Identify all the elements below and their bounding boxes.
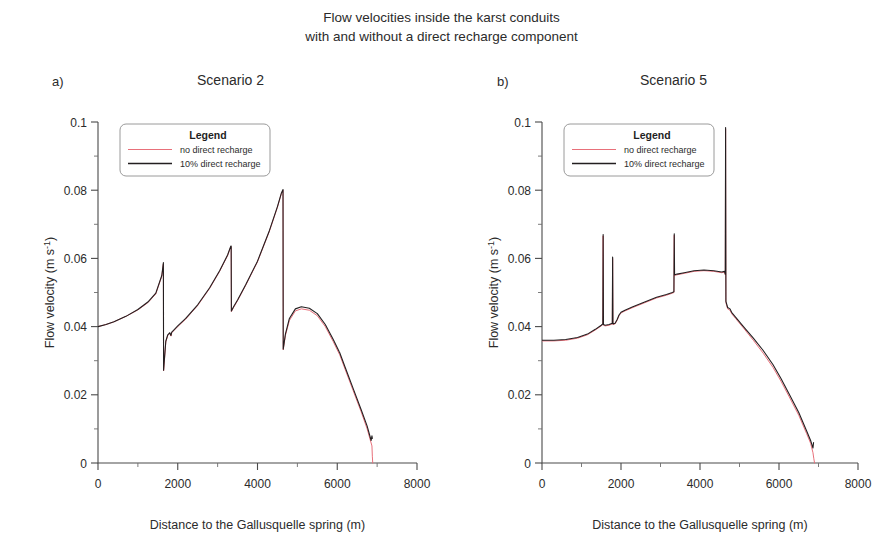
- series-line-no-direct-recharge: [98, 190, 373, 463]
- y-tick-label: 0.04: [64, 320, 88, 334]
- legend-label-ten-percent-direct-recharge: 10% direct recharge: [180, 159, 261, 169]
- y-tick-label: 0.1: [514, 116, 531, 130]
- legend-title: Legend: [189, 129, 226, 141]
- y-tick-label: 0: [524, 457, 531, 471]
- x-tick-label: 0: [95, 477, 102, 491]
- x-tick-label: 0: [539, 477, 546, 491]
- y-axis-title-main: Flow velocity (m s: [487, 249, 501, 348]
- y-tick-label: 0.08: [508, 184, 532, 198]
- legend-title: Legend: [633, 129, 670, 141]
- series-line-ten-percent-direct-recharge: [98, 190, 372, 441]
- legend-label-ten-percent-direct-recharge: 10% direct recharge: [624, 159, 705, 169]
- legend: Legendno direct recharge10% direct recha…: [564, 124, 714, 176]
- figure-title-line1: Flow velocities inside the karst conduit…: [0, 8, 883, 27]
- y-tick-label: 0.02: [508, 388, 532, 402]
- x-tick-label: 8000: [845, 477, 872, 491]
- y-tick-label: 0.06: [64, 252, 88, 266]
- y-axis-title-close: ): [43, 237, 57, 241]
- x-axis-title: Distance to the Gallusquelle spring (m): [150, 518, 365, 532]
- figure-root: Flow velocities inside the karst conduit…: [0, 0, 883, 542]
- y-tick-label: 0.04: [508, 320, 532, 334]
- y-tick-label: 0: [80, 457, 87, 471]
- x-tick-label: 8000: [404, 477, 431, 491]
- panel-b-subtitle: Scenario 5: [441, 72, 882, 88]
- y-tick-label: 0.08: [64, 184, 88, 198]
- y-axis-title-superscript: -1: [42, 241, 52, 249]
- chart-a-canvas: 00.020.040.060.080.102000400060008000Dis…: [0, 62, 441, 542]
- y-axis-title: Flow velocity (m s-1): [486, 237, 501, 349]
- y-axis-title-main: Flow velocity (m s: [43, 249, 57, 348]
- legend-label-no-direct-recharge: no direct recharge: [180, 145, 253, 155]
- x-tick-label: 2000: [608, 477, 635, 491]
- y-tick-label: 0.02: [64, 388, 88, 402]
- panel-scenario-5: b) Scenario 5 00.020.040.060.080.1020004…: [441, 62, 882, 542]
- figure-title: Flow velocities inside the karst conduit…: [0, 8, 883, 46]
- x-tick-label: 2000: [164, 477, 191, 491]
- y-tick-label: 0.1: [70, 116, 87, 130]
- figure-title-line2: with and without a direct recharge compo…: [0, 27, 883, 46]
- y-axis-title: Flow velocity (m s-1): [42, 237, 57, 349]
- y-axis-title-close: ): [487, 237, 501, 241]
- y-axis-title-superscript: -1: [486, 241, 496, 249]
- y-tick-label: 0.06: [508, 252, 532, 266]
- x-tick-label: 4000: [687, 477, 714, 491]
- x-tick-label: 4000: [244, 477, 271, 491]
- x-tick-label: 6000: [324, 477, 351, 491]
- x-tick-label: 6000: [766, 477, 793, 491]
- legend: Legendno direct recharge10% direct recha…: [120, 124, 270, 176]
- panel-a-subtitle: Scenario 2: [0, 72, 441, 88]
- x-axis-title: Distance to the Gallusquelle spring (m): [592, 518, 807, 532]
- series-line-no-direct-recharge: [542, 129, 815, 463]
- legend-label-no-direct-recharge: no direct recharge: [624, 145, 697, 155]
- chart-b-canvas: 00.020.040.060.080.102000400060008000Dis…: [441, 62, 882, 542]
- panel-scenario-2: a) Scenario 2 00.020.040.060.080.1020004…: [0, 62, 441, 542]
